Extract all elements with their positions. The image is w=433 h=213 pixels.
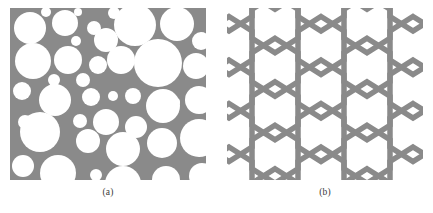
panel-b-caption: (b)	[227, 186, 423, 198]
hexagon-cell	[252, 8, 298, 9]
pore-circle	[15, 43, 51, 79]
hexagon-cell-group	[227, 8, 423, 180]
pore-circle	[76, 73, 90, 87]
hexagon-cell	[298, 104, 344, 162]
hexagon-cell	[344, 8, 390, 9]
pore-circle	[12, 155, 34, 177]
pore-circle	[71, 36, 81, 46]
pore-circle	[14, 12, 46, 44]
honeycomb-lattice-graphic	[227, 8, 423, 180]
pore-circle	[82, 88, 100, 106]
panel-b-hexagonal-honeycomb	[227, 8, 423, 180]
pore-circle	[106, 132, 140, 166]
pore-circle	[147, 128, 177, 158]
pore-circle	[160, 8, 194, 41]
pore-circle	[89, 56, 107, 74]
pore-circle	[134, 39, 182, 87]
hexagon-cell	[344, 38, 390, 96]
pore-circle	[108, 91, 118, 101]
hexagon-cell	[252, 82, 298, 140]
pore-circle	[20, 112, 60, 152]
pore-circle	[93, 109, 119, 135]
pore-circle	[146, 89, 180, 123]
panel-a-caption: (a)	[10, 186, 206, 198]
pore-circle	[39, 84, 71, 116]
random-pore-structure-graphic	[10, 8, 206, 180]
pore-circle	[54, 46, 82, 74]
figure-root: (a) (b)	[0, 0, 433, 213]
pore-circle	[172, 98, 180, 106]
pore-circle	[125, 88, 141, 104]
pore-circle	[107, 46, 135, 74]
pore-circle	[74, 8, 82, 16]
hexagon-cell	[298, 17, 344, 75]
hexagon-cell	[344, 82, 390, 140]
pore-circle	[73, 114, 87, 128]
panel-a-random-pore-structure	[10, 8, 206, 180]
pore-circle	[76, 129, 100, 153]
hexagon-cell	[252, 38, 298, 96]
pore-circle	[52, 10, 78, 36]
hexagon-cell	[298, 60, 344, 118]
pore-circle	[13, 82, 31, 100]
